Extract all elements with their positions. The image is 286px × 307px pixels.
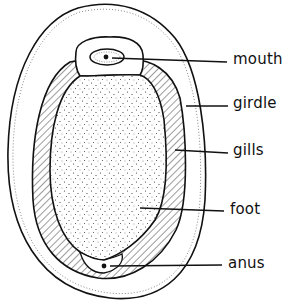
label-girdle: girdle — [233, 96, 277, 111]
label-anus: anus — [228, 256, 265, 271]
chiton-diagram: mouth girdle gills foot anus — [0, 0, 286, 307]
mouth-icon — [90, 49, 124, 65]
anus-icon — [102, 264, 107, 269]
leader-anus — [110, 265, 222, 266]
label-mouth: mouth — [233, 52, 283, 67]
label-gills: gills — [233, 143, 264, 158]
label-foot: foot — [230, 202, 260, 217]
